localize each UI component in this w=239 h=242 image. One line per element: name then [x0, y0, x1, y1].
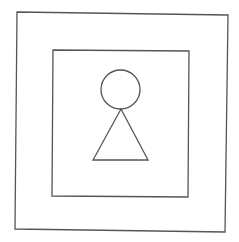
- background: [0, 0, 239, 242]
- diagram-canvas: [0, 0, 239, 242]
